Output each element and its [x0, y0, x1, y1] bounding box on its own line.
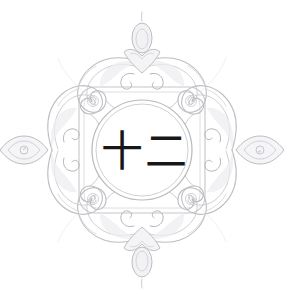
ornament-top-crest — [58, 12, 226, 112]
ornament-artwork — [0, 0, 285, 304]
ornament-bottom-crest — [58, 188, 226, 288]
artwork-canvas: 十 二 — [0, 0, 285, 304]
center-medallion-circles — [92, 100, 192, 200]
